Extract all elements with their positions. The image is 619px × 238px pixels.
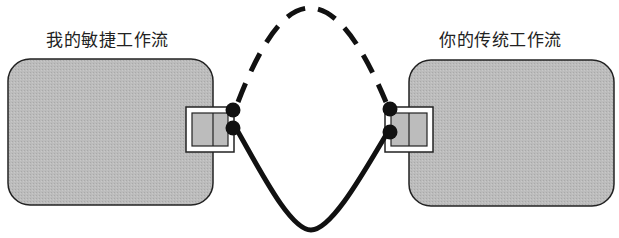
- right-workflow-box: [409, 60, 614, 206]
- right-lower-dot: [383, 125, 398, 140]
- left-workflow-box: [8, 59, 213, 205]
- solid-lower-link: [237, 130, 389, 230]
- left-lower-dot: [226, 121, 241, 136]
- right-upper-dot: [383, 102, 398, 117]
- dashed-upper-link: [238, 8, 386, 102]
- workflow-diagram: [0, 0, 619, 238]
- left-upper-dot: [226, 103, 241, 118]
